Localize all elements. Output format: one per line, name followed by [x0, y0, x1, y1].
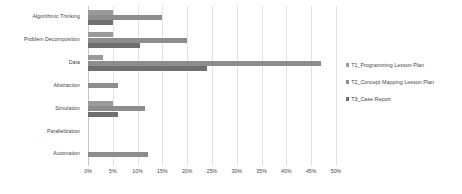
- x-tick-label: 50%: [331, 168, 342, 174]
- category-row: Parallelization: [0, 120, 84, 143]
- category-row: Problem Decomposition: [0, 29, 84, 52]
- bar: [88, 101, 113, 106]
- bar: [88, 10, 113, 15]
- legend-swatch-icon: [346, 63, 349, 66]
- category-label: Automation: [53, 152, 80, 158]
- x-tick-label: 0%: [84, 168, 92, 174]
- x-tick-label: 20%: [182, 168, 193, 174]
- bar: [88, 152, 148, 157]
- category-label: Algorithmic Thinking: [32, 15, 80, 21]
- bar: [88, 61, 321, 66]
- value-axis: 0%5%10%15%20%25%30%35%40%45%50%: [88, 168, 336, 184]
- bar-group: [88, 29, 336, 52]
- bar: [88, 32, 113, 37]
- category-label: Simulation: [55, 106, 80, 112]
- bar: [88, 20, 113, 25]
- bar: [88, 66, 207, 71]
- bar: [88, 15, 162, 20]
- category-row: Algorithmic Thinking: [0, 6, 84, 29]
- category-row: Simulation: [0, 97, 84, 120]
- legend-label: T1_Programming Lesson Plan: [351, 62, 424, 68]
- chart-legend: T1_Programming Lesson PlanT2_Concept Map…: [346, 62, 460, 113]
- bar-group: [88, 75, 336, 98]
- legend-item[interactable]: T3_Case Report: [346, 96, 460, 102]
- bar-group: [88, 6, 336, 29]
- category-label: Parallelization: [47, 129, 80, 135]
- bar: [88, 38, 187, 43]
- category-row: Automation: [0, 143, 84, 166]
- bar-chart: Algorithmic ThinkingProblem Decompositio…: [0, 0, 462, 194]
- category-label: Problem Decomposition: [24, 37, 80, 43]
- category-label: Data: [69, 60, 80, 66]
- bar: [88, 55, 103, 60]
- bars-layer: [88, 6, 336, 166]
- category-row: Data: [0, 52, 84, 75]
- category-axis: Algorithmic ThinkingProblem Decompositio…: [0, 6, 84, 166]
- x-tick-label: 15%: [157, 168, 168, 174]
- bar: [88, 106, 145, 111]
- legend-label: T2_Concept Mapping Lesson Plan: [351, 79, 434, 85]
- legend-swatch-icon: [346, 80, 349, 83]
- bar-group: [88, 97, 336, 120]
- legend-swatch-icon: [346, 97, 349, 100]
- bar: [88, 83, 118, 88]
- bar-group: [88, 52, 336, 75]
- x-tick-label: 5%: [109, 168, 117, 174]
- bar-group: [88, 120, 336, 143]
- legend-item[interactable]: T1_Programming Lesson Plan: [346, 62, 460, 68]
- bar-group: [88, 143, 336, 166]
- bar: [88, 112, 118, 117]
- x-tick-label: 25%: [207, 168, 218, 174]
- category-label: Abstraction: [53, 83, 80, 89]
- x-tick-label: 10%: [132, 168, 143, 174]
- x-tick-label: 35%: [256, 168, 267, 174]
- x-tick-label: 45%: [306, 168, 317, 174]
- x-tick-label: 30%: [232, 168, 243, 174]
- bar: [88, 43, 140, 48]
- category-row: Abstraction: [0, 75, 84, 98]
- plot-area: [88, 6, 336, 166]
- legend-item[interactable]: T2_Concept Mapping Lesson Plan: [346, 79, 460, 85]
- gridline: [336, 6, 337, 166]
- legend-label: T3_Case Report: [351, 96, 391, 102]
- x-tick-label: 40%: [281, 168, 292, 174]
